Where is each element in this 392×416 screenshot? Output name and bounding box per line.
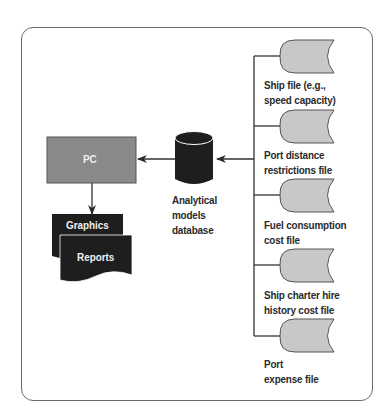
- database-label: Analytical models database: [172, 193, 217, 238]
- file-icon-charter: [280, 249, 334, 282]
- file-label-fuel: Fuel consumption cost file: [264, 218, 346, 248]
- file-icon-port-expense: [280, 319, 334, 352]
- file-label-port-expense: Port expense file: [264, 357, 319, 387]
- graphics-label: Graphics: [66, 219, 109, 231]
- file-icon-port-distance: [280, 110, 334, 143]
- database-icon: [175, 132, 213, 185]
- pc-label: PC: [83, 153, 97, 165]
- file-label-ship: Ship file (e.g., speed capacity): [264, 78, 336, 108]
- file-icon-ship: [280, 40, 334, 73]
- file-label-port-distance: Port distance restrictions file: [264, 148, 332, 178]
- reports-label: Reports: [77, 251, 114, 263]
- file-icon-fuel: [280, 179, 334, 212]
- file-label-charter: Ship charter hire history cost file: [264, 288, 340, 318]
